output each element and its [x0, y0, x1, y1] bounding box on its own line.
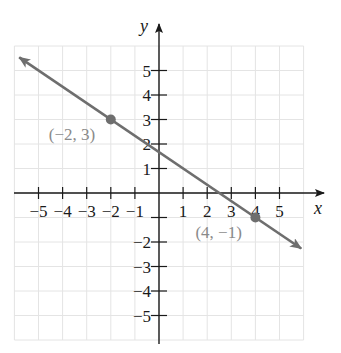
axes	[14, 24, 324, 344]
y-axis-label: y	[138, 16, 148, 36]
y-tick-label: 1	[143, 160, 152, 179]
point-label: (−2, 3)	[49, 125, 95, 144]
x-tick-label: −1	[126, 202, 144, 221]
point-label: (4, −1)	[195, 223, 241, 242]
data-point	[250, 213, 260, 223]
coordinate-plane-chart: −5−4−3−2−11234554321−2−3−4−5 (−2, 3)(4, …	[0, 0, 341, 353]
x-tick-label: 1	[179, 202, 188, 221]
y-tick-label: 4	[143, 86, 152, 105]
y-tick-label: −2	[133, 233, 151, 252]
y-tick-label: 5	[143, 62, 152, 81]
x-tick-label: −5	[29, 202, 47, 221]
y-tick-label: 3	[143, 111, 152, 130]
x-tick-label: 5	[275, 202, 284, 221]
data-point	[106, 115, 116, 125]
x-tick-label: −3	[78, 202, 96, 221]
y-tick-label: −5	[133, 307, 151, 326]
x-tick-label: 2	[203, 202, 212, 221]
x-axis-label: x	[313, 198, 322, 218]
x-tick-label: −2	[102, 202, 120, 221]
data-points: (−2, 3)(4, −1)	[49, 115, 261, 242]
y-tick-label: −4	[133, 282, 152, 301]
x-tick-label: −4	[54, 202, 73, 221]
x-tick-label: 3	[227, 202, 236, 221]
y-tick-label: −3	[133, 258, 151, 277]
